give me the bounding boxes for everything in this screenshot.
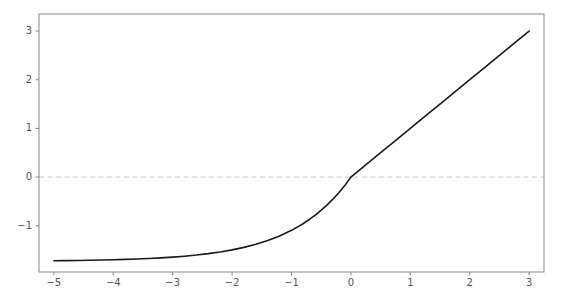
- x-tick-label: 2: [467, 277, 473, 288]
- x-tick-label: 3: [526, 277, 532, 288]
- y-tick-label: 0: [26, 171, 32, 182]
- line-chart: −5−4−3−2−10123 −10123: [0, 0, 561, 304]
- y-tick-label: 1: [26, 122, 32, 133]
- plot-area-background: [39, 14, 544, 272]
- x-tick-label: −4: [106, 277, 121, 288]
- x-tick-label: −1: [284, 277, 299, 288]
- x-tick-label: −2: [225, 277, 240, 288]
- y-tick-label: 3: [26, 25, 32, 36]
- x-tick-label: −3: [165, 277, 180, 288]
- y-tick-label: 2: [26, 74, 32, 85]
- x-tick-label: −5: [46, 277, 61, 288]
- x-tick-label: 0: [348, 277, 354, 288]
- x-tick-label: 1: [407, 277, 413, 288]
- y-tick-label: −1: [17, 220, 32, 231]
- chart-figure: −5−4−3−2−10123 −10123: [0, 0, 561, 304]
